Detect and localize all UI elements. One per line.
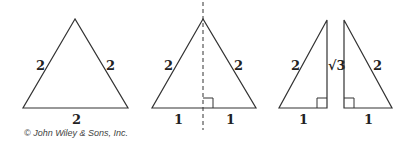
- right-angle-marker: [317, 98, 327, 108]
- triangle-shape: [279, 20, 327, 108]
- height-label: √3: [328, 58, 346, 73]
- diagram-canvas: 2 2 2 2 2 1 1 2 √3 1 2 1 © John Wiley & …: [0, 0, 415, 141]
- bisected-triangle: 2 2 1 1: [152, 2, 256, 130]
- base-label: 1: [364, 112, 373, 127]
- hypotenuse-label: 2: [373, 58, 382, 73]
- base-left-label: 1: [174, 112, 183, 127]
- base-right-label: 1: [226, 112, 235, 127]
- hypotenuse-label: 2: [291, 58, 300, 73]
- right-side-label: 2: [106, 58, 115, 73]
- copyright-notice: © John Wiley & Sons, Inc.: [24, 128, 128, 138]
- right-angle-marker: [344, 98, 354, 108]
- right-side-label: 2: [234, 58, 243, 73]
- left-side-label: 2: [36, 58, 45, 73]
- left-side-label: 2: [164, 58, 173, 73]
- base-label: 1: [299, 112, 308, 127]
- right-right-triangle: 2 1: [344, 20, 392, 127]
- left-right-triangle: 2 √3 1: [279, 20, 346, 127]
- right-angle-marker: [203, 98, 213, 108]
- equilateral-triangle: 2 2 2: [23, 19, 128, 127]
- base-label: 2: [72, 112, 81, 127]
- triangle-shape: [344, 20, 392, 108]
